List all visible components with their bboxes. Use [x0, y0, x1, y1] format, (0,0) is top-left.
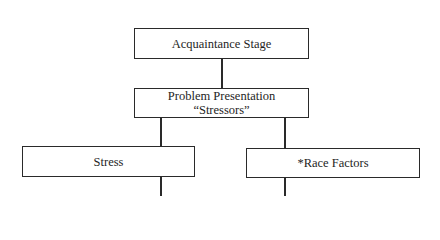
connector-acquaintance-to-problem	[221, 58, 223, 88]
node-label-line-1: Problem Presentation	[168, 89, 275, 103]
node-race-factors: *Race Factors	[246, 148, 420, 178]
node-acquaintance-stage: Acquaintance Stage	[134, 28, 309, 59]
connector-problem-to-race-factors	[284, 117, 286, 149]
node-label: Stress	[94, 155, 124, 169]
node-problem-presentation: Problem Presentation “Stressors”	[134, 88, 309, 118]
node-label: Acquaintance Stage	[172, 37, 272, 51]
node-stress: Stress	[22, 146, 195, 177]
connector-race-factors-continues	[284, 177, 286, 196]
node-label: *Race Factors	[297, 156, 368, 170]
connector-stress-continues	[160, 176, 162, 196]
connector-problem-to-stress	[160, 117, 162, 147]
node-label-line-2: “Stressors”	[193, 103, 249, 117]
